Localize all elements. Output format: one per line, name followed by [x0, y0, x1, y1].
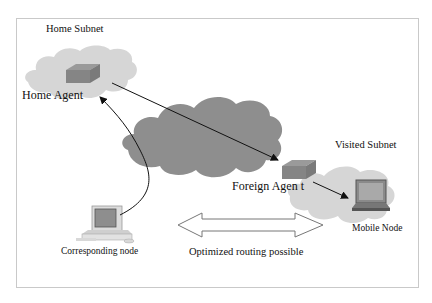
corresponding-node-label: Corresponding node [61, 247, 138, 257]
mobile-node-laptop-icon[interactable] [352, 180, 390, 211]
visited-subnet-label: Visited Subnet [335, 140, 397, 151]
corresponding-node-computer-icon[interactable] [76, 206, 134, 243]
home-agent-label: Home Agent [22, 89, 83, 101]
optimized-routing-label: Optimized routing possible [189, 247, 303, 258]
diagram-canvas [0, 0, 432, 303]
mobile-node-label: Mobile Node [352, 224, 402, 234]
foreign-agent-label: Foreign Agen t [232, 180, 304, 192]
home-subnet-label: Home Subnet [46, 24, 103, 35]
optimized-routing-double-arrow [178, 213, 323, 237]
